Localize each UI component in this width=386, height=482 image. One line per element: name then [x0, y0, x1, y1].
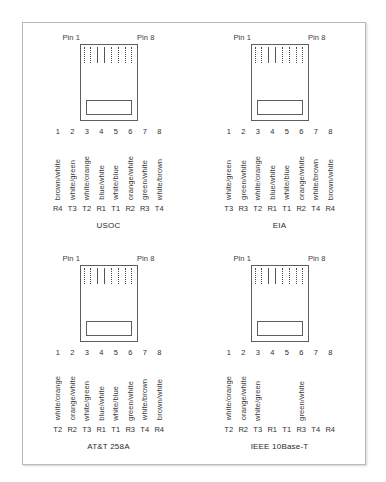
- pair-designation: T4: [311, 424, 320, 436]
- pair-designation: R4: [154, 424, 164, 436]
- pair-designation: T4: [311, 203, 320, 215]
- jack-contact-4: [104, 268, 106, 284]
- pair-designation: T2: [253, 203, 262, 215]
- pin-number: 2: [70, 127, 74, 138]
- jack-latch-slot: [86, 100, 132, 115]
- jack-contact-6: [118, 47, 120, 63]
- pair-designation: R4: [53, 203, 63, 215]
- pin-number: 3: [256, 127, 260, 138]
- standard-name-label: AT&T 258A: [87, 442, 129, 451]
- pair-designation: R1: [96, 424, 106, 436]
- wire-color-slot: blue/white: [97, 359, 106, 421]
- pin-column: 5white/blueT1: [109, 127, 124, 215]
- pair-designation: R1: [267, 203, 277, 215]
- pair-designation: R3: [296, 424, 306, 436]
- rj45-jack-icon: [80, 265, 138, 342]
- pin-column: 2green/whiteR3: [236, 127, 251, 215]
- jack-contact-3: [268, 47, 270, 63]
- rj45-jack-icon: [251, 44, 309, 121]
- pin-header: Pin 1Pin 8: [234, 33, 326, 42]
- wire-color-label: white/orange: [224, 376, 233, 420]
- wire-color-label: blue/white: [268, 165, 277, 200]
- pin-column: 4R1: [265, 348, 280, 436]
- wire-color-label: orange/white: [239, 376, 248, 420]
- pin-number: 8: [157, 127, 161, 138]
- pinout-usoc: Pin 1Pin 81brown/whiteR42white/greenT33w…: [23, 23, 194, 244]
- pin-number: 5: [114, 127, 118, 138]
- jack-contact-5: [111, 47, 113, 63]
- wire-color-slot: white/blue: [282, 138, 291, 200]
- pair-designation: R4: [325, 424, 335, 436]
- pin-last-label: Pin 8: [308, 254, 326, 263]
- jack-contact-8: [302, 47, 304, 63]
- pin-header: Pin 1Pin 8: [63, 254, 155, 263]
- jack-contact-5: [282, 268, 284, 284]
- wire-color-slot: orange/white: [68, 359, 77, 421]
- pair-designation: T3: [224, 203, 233, 215]
- pin-number: 1: [56, 348, 60, 359]
- jack-contact-5: [282, 47, 284, 63]
- wire-color-slot: blue/white: [268, 138, 277, 200]
- wire-color-label: white/brown: [140, 379, 149, 420]
- pin-number: 7: [314, 348, 318, 359]
- wire-color-slot: white/green: [224, 138, 233, 200]
- pin-column: 8white/brownT4: [152, 127, 167, 215]
- wire-color-slot: white/orange: [253, 138, 262, 200]
- pin-number: 4: [270, 348, 274, 359]
- wire-color-label: white/brown: [155, 159, 164, 200]
- pair-designation: T3: [68, 203, 77, 215]
- pin-number: 7: [143, 127, 147, 138]
- jack-contact-6: [118, 268, 120, 284]
- wire-color-label: white/green: [82, 381, 91, 421]
- pair-designation: R1: [96, 203, 106, 215]
- jack-contact-3: [97, 47, 99, 63]
- pin-column: 4blue/whiteR1: [94, 127, 109, 215]
- jack-contact-2: [90, 268, 92, 284]
- wire-color-label: white/orange: [53, 376, 62, 420]
- pin-number: 8: [328, 348, 332, 359]
- pin-assignment-table: 1white/orangeT22orange/whiteR23white/gre…: [51, 348, 167, 436]
- pin-column: 7T4: [309, 348, 324, 436]
- wire-color-label: white/blue: [282, 165, 291, 200]
- jack-contact-8: [302, 268, 304, 284]
- pin-column: 8brown/whiteR4: [152, 348, 167, 436]
- pin-number: 5: [285, 348, 289, 359]
- jack-contact-2: [261, 47, 263, 63]
- jack-contacts: [84, 268, 134, 284]
- pair-designation: R2: [238, 424, 248, 436]
- jack-contact-4: [275, 268, 277, 284]
- pin-column: 4blue/whiteR1: [265, 127, 280, 215]
- pin-number: 6: [128, 127, 132, 138]
- pin-column: 4blue/whiteR1: [94, 348, 109, 436]
- jack-contact-2: [90, 47, 92, 63]
- pin-number: 4: [99, 348, 103, 359]
- pin-first-label: Pin 1: [234, 33, 252, 42]
- wire-color-slot: green/white: [239, 138, 248, 200]
- pin-number: 6: [299, 127, 303, 138]
- pin-column: 5T1: [280, 348, 295, 436]
- pin-first-label: Pin 1: [234, 254, 252, 263]
- pin-number: 3: [85, 127, 89, 138]
- pair-designation: R2: [296, 203, 306, 215]
- rj45-jack-icon: [80, 44, 138, 121]
- pinout-diagram-frame: Pin 1Pin 81brown/whiteR42white/greenT33w…: [22, 22, 366, 465]
- pin-first-label: Pin 1: [63, 33, 81, 42]
- wire-color-label: green/white: [297, 381, 306, 421]
- pair-designation: T2: [224, 424, 233, 436]
- jack-contact-4: [104, 47, 106, 63]
- pair-designation: R4: [325, 203, 335, 215]
- wire-color-label: white/blue: [111, 386, 120, 421]
- pin-number: 8: [328, 127, 332, 138]
- wire-color-label: blue/white: [97, 386, 106, 421]
- pin-column: 6orange/whiteR2: [123, 127, 138, 215]
- wire-color-label: blue/white: [97, 165, 106, 200]
- jack-contacts: [84, 47, 134, 63]
- pin-column: 6green/whiteR3: [294, 348, 309, 436]
- pin-assignment-table: 1brown/whiteR42white/greenT33white/orang…: [51, 127, 167, 215]
- wire-color-slot: white/green: [253, 359, 262, 421]
- standard-name-label: IEEE 10Base-T: [251, 442, 309, 451]
- pin-number: 1: [227, 127, 231, 138]
- wire-color-label: orange/white: [297, 156, 306, 200]
- jack-contact-7: [296, 47, 298, 63]
- jack-contact-6: [289, 47, 291, 63]
